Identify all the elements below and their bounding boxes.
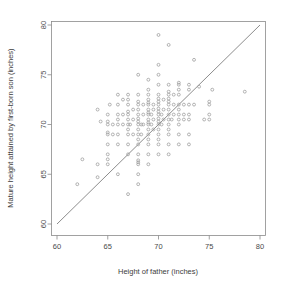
data-point — [106, 120, 109, 123]
data-point — [147, 111, 150, 114]
data-point — [243, 90, 246, 93]
data-point — [142, 103, 145, 106]
data-point — [106, 153, 109, 156]
data-point — [157, 120, 160, 123]
data-point — [177, 113, 180, 116]
data-point — [167, 83, 170, 86]
data-point — [162, 108, 165, 111]
data-point — [157, 143, 160, 146]
data-point — [157, 107, 160, 110]
data-point — [157, 93, 160, 96]
data-point — [157, 138, 160, 141]
data-point — [150, 123, 153, 126]
data-point — [142, 113, 145, 116]
x-tick-label: 60 — [53, 242, 61, 251]
data-point — [116, 133, 119, 136]
data-point — [157, 113, 160, 116]
data-point — [137, 183, 140, 186]
data-point — [208, 103, 211, 106]
data-point — [193, 103, 196, 106]
data-point — [172, 103, 175, 106]
data-point — [147, 138, 150, 141]
data-point — [150, 113, 153, 116]
data-point — [116, 113, 119, 116]
data-point — [116, 143, 119, 146]
data-point — [127, 93, 130, 96]
data-point — [157, 133, 160, 136]
data-point — [137, 138, 140, 141]
data-point — [167, 43, 170, 46]
data-point — [132, 118, 135, 121]
y-tick-label: 70 — [39, 120, 48, 128]
data-point — [127, 103, 130, 106]
data-point — [172, 93, 175, 96]
data-point — [127, 143, 130, 146]
data-point — [137, 73, 140, 76]
x-tick-label: 80 — [256, 242, 264, 251]
data-point — [157, 128, 160, 131]
data-point — [147, 143, 150, 146]
data-point — [177, 81, 180, 84]
data-point — [137, 173, 140, 176]
data-point — [137, 108, 140, 111]
data-point — [160, 123, 163, 126]
identity-line — [57, 25, 260, 224]
data-point — [127, 133, 130, 136]
data-point — [122, 98, 125, 101]
scatter-plot-figure: 6065707580 6065707580 Height of father (… — [0, 0, 283, 290]
data-point — [157, 34, 160, 37]
data-point — [170, 118, 173, 121]
data-point — [99, 120, 102, 123]
data-point — [193, 58, 196, 61]
data-point — [127, 118, 130, 121]
data-point — [129, 123, 132, 126]
data-point — [177, 143, 180, 146]
data-point — [137, 123, 140, 126]
data-point — [188, 113, 191, 116]
data-point — [140, 133, 143, 136]
data-point — [157, 103, 160, 106]
y-tick-label: 60 — [39, 220, 48, 228]
data-points — [76, 34, 246, 196]
data-point — [122, 113, 125, 116]
data-point — [147, 88, 150, 91]
data-point — [188, 118, 191, 121]
data-point — [147, 121, 150, 124]
data-point — [147, 118, 150, 121]
data-point — [96, 163, 99, 166]
data-point — [177, 88, 180, 91]
data-point — [137, 159, 140, 162]
y-axis-label: Mature height attained by first-born son… — [6, 48, 15, 208]
data-point — [157, 63, 160, 66]
data-point — [137, 117, 140, 120]
data-point — [111, 133, 114, 136]
data-point — [137, 100, 140, 103]
data-point — [208, 100, 211, 103]
data-point — [157, 117, 160, 120]
data-point — [211, 88, 214, 91]
data-point — [127, 110, 130, 113]
data-point — [147, 101, 150, 104]
data-point — [137, 103, 140, 106]
data-point — [167, 90, 170, 93]
data-point — [137, 93, 140, 96]
data-point — [152, 108, 155, 111]
data-point — [167, 100, 170, 103]
data-point — [147, 128, 150, 131]
data-point — [157, 73, 160, 76]
x-axis-label: Height of father (inches) — [118, 267, 199, 276]
data-point — [137, 120, 140, 123]
data-point — [182, 118, 185, 121]
data-point — [96, 108, 99, 111]
data-point — [162, 98, 165, 101]
data-point — [167, 128, 170, 131]
data-point — [81, 158, 84, 161]
data-point — [108, 103, 111, 106]
data-point — [157, 83, 160, 86]
data-point — [152, 118, 155, 121]
data-point — [177, 123, 180, 126]
data-point — [157, 153, 160, 156]
plot-frame — [52, 22, 266, 236]
x-tick-label: 75 — [205, 242, 213, 251]
data-point — [167, 93, 170, 96]
